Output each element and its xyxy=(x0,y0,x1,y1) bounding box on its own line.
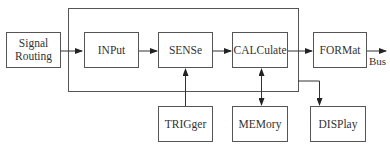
format-block: FORMat xyxy=(313,32,367,68)
calculate-label: CALCulate xyxy=(233,44,286,57)
display-block: DISPlay xyxy=(310,106,366,142)
sense-block: SENSe xyxy=(158,32,213,68)
block-diagram: Signal Routing INPut SENSe CALCulate FOR… xyxy=(0,0,390,151)
memory-block: MEMory xyxy=(232,106,288,142)
format-label: FORMat xyxy=(320,44,361,57)
trigger-block: TRIGger xyxy=(158,106,213,142)
trigger-label: TRIGger xyxy=(165,118,207,131)
bus-label: Bus xyxy=(369,55,386,67)
input-label: INPut xyxy=(98,44,125,57)
signal-routing-label: Signal Routing xyxy=(14,37,54,63)
sense-label: SENSe xyxy=(169,44,202,57)
calculate-block: CALCulate xyxy=(232,32,288,68)
input-block: INPut xyxy=(84,32,139,68)
display-label: DISPlay xyxy=(319,118,358,131)
signal-routing-block: Signal Routing xyxy=(6,32,61,68)
memory-label: MEMory xyxy=(239,118,282,131)
